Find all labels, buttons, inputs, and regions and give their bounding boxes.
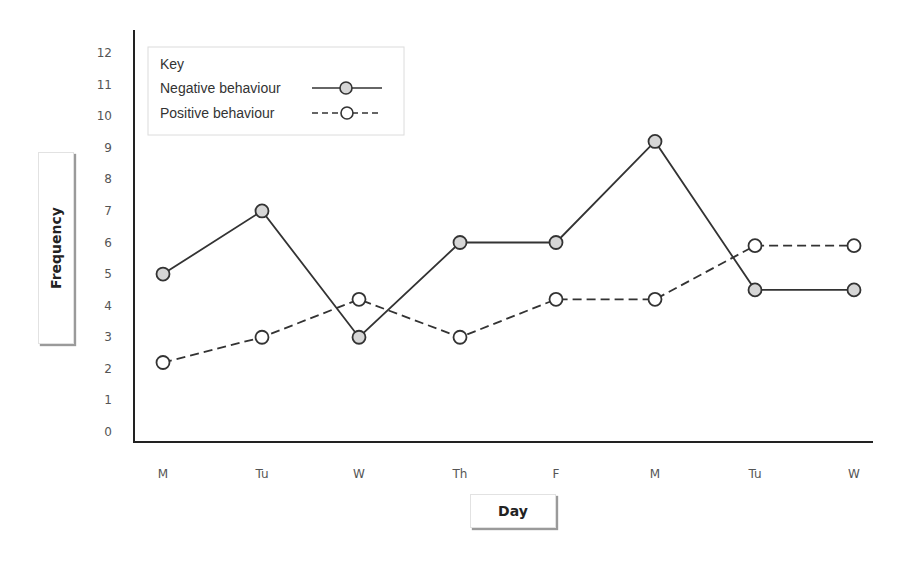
- negative-data-point: [848, 283, 861, 296]
- negative-data-point: [649, 135, 662, 148]
- x-tick-label: Th: [452, 467, 468, 481]
- positive-data-point: [454, 331, 467, 344]
- negative-data-point: [353, 331, 366, 344]
- negative-data-point: [256, 204, 269, 217]
- x-tick-label: M: [158, 467, 168, 481]
- positive-data-point: [649, 293, 662, 306]
- y-tick-label: 3: [104, 330, 112, 344]
- x-tick-label: F: [553, 467, 560, 481]
- y-tick-label: 9: [104, 141, 112, 155]
- y-tick-label: 2: [104, 362, 112, 376]
- y-tick-label: 11: [97, 78, 112, 92]
- x-tick-labels: MTuWThFMTuW: [158, 467, 860, 481]
- y-tick-labels: 0123456789101112: [97, 46, 112, 439]
- positive-data-point: [550, 293, 563, 306]
- line-chart: 0123456789101112 MTuWThFMTuW Key Negativ…: [0, 0, 901, 562]
- negative-behaviour-line: [163, 141, 854, 337]
- legend-title: Key: [160, 56, 184, 72]
- x-tick-label: W: [353, 467, 365, 481]
- y-tick-label: 8: [104, 172, 112, 186]
- positive-behaviour-line: [163, 246, 854, 363]
- x-tick-label: W: [848, 467, 860, 481]
- y-tick-label: 4: [104, 299, 112, 313]
- x-tick-label: M: [650, 467, 660, 481]
- y-tick-label: 6: [104, 236, 112, 250]
- negative-data-point: [454, 236, 467, 249]
- series-group: [157, 135, 861, 369]
- y-tick-label: 12: [97, 46, 112, 60]
- x-axis-title-text: Day: [498, 503, 528, 519]
- negative-data-point: [550, 236, 563, 249]
- positive-data-point: [848, 239, 861, 252]
- y-tick-label: 1: [104, 393, 112, 407]
- y-tick-label: 5: [104, 267, 112, 281]
- positive-data-point: [749, 239, 762, 252]
- x-tick-label: Tu: [254, 467, 268, 481]
- y-axis-title: Frequency: [38, 152, 74, 344]
- legend-marker-negative-icon: [340, 82, 352, 94]
- y-axis-title-text: Frequency: [48, 207, 64, 289]
- legend-label-negative: Negative behaviour: [160, 80, 281, 96]
- y-tick-label: 7: [104, 204, 112, 218]
- x-tick-label: Tu: [747, 467, 761, 481]
- x-axis-title: Day: [470, 494, 556, 528]
- negative-data-point: [157, 268, 170, 281]
- positive-data-point: [157, 356, 170, 369]
- legend-marker-positive-icon: [341, 107, 353, 119]
- negative-data-point: [749, 283, 762, 296]
- legend: Key Negative behaviour Positive behaviou…: [148, 47, 404, 135]
- y-tick-label: 10: [97, 109, 112, 123]
- positive-data-point: [353, 293, 366, 306]
- legend-label-positive: Positive behaviour: [160, 105, 275, 121]
- y-tick-label: 0: [104, 425, 112, 439]
- positive-data-point: [256, 331, 269, 344]
